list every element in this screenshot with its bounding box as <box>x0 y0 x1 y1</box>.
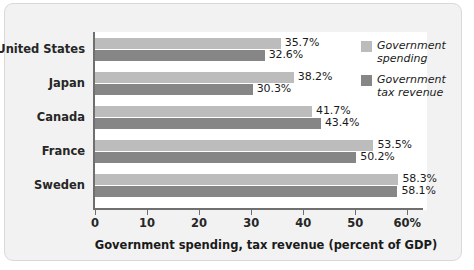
category-label: Sweden <box>34 179 85 191</box>
x-axis-title: Government spending, tax revenue (percen… <box>93 238 439 252</box>
bar-group: 53.5%50.2% <box>95 139 427 165</box>
bar-revenue <box>95 118 321 129</box>
bar-spending <box>95 174 398 185</box>
x-axis-tick <box>251 210 252 215</box>
category-label: United States <box>0 43 85 55</box>
x-axis-tick <box>95 210 96 215</box>
bar-revenue <box>95 50 265 61</box>
bar-group: 41.7%43.4% <box>95 105 427 131</box>
bar-revenue <box>95 84 253 95</box>
legend-item-tax-revenue: Government tax revenue <box>361 74 446 99</box>
x-axis-tick-label: 30 <box>243 217 259 230</box>
bar-spending <box>95 106 312 117</box>
chart-legend: Government spending Government tax reven… <box>361 40 446 108</box>
bar-value-label: 30.3% <box>257 83 291 94</box>
x-axis-tick <box>147 210 148 215</box>
x-axis-tick-label: 60% <box>394 217 422 230</box>
legend-swatch-spending-icon <box>361 41 372 52</box>
bar-group: 58.3%58.1% <box>95 173 427 199</box>
category-label: France <box>42 145 85 157</box>
bar-spending <box>95 140 373 151</box>
category-label: Japan <box>49 77 85 89</box>
legend-item-spending: Government spending <box>361 40 446 65</box>
x-axis-tick <box>303 210 304 215</box>
category-label: Canada <box>37 111 85 123</box>
x-axis-tick-label: 50 <box>347 217 363 230</box>
legend-label-spending: Government spending <box>377 40 446 65</box>
bar-value-label: 35.7% <box>285 37 319 48</box>
bar-revenue <box>95 152 356 163</box>
bar-revenue <box>95 186 397 197</box>
bar-value-label: 38.2% <box>298 71 332 82</box>
legend-swatch-tax-revenue-icon <box>361 75 372 86</box>
x-axis-tick-label: 10 <box>139 217 155 230</box>
bar-value-label: 43.4% <box>325 117 359 128</box>
x-axis-tick-label: 40 <box>295 217 311 230</box>
x-axis-tick <box>199 210 200 215</box>
bar-value-label: 58.3% <box>402 173 436 184</box>
legend-label-tax-revenue: Government tax revenue <box>377 74 446 99</box>
bar-value-label: 41.7% <box>316 105 350 116</box>
bar-spending <box>95 38 281 49</box>
figure-card: United StatesJapanCanadaFranceSweden 35.… <box>4 3 462 261</box>
x-axis-tick-label: 0 <box>91 217 99 230</box>
x-axis-tick-label: 20 <box>191 217 207 230</box>
x-axis-tick <box>355 210 356 215</box>
bar-value-label: 32.6% <box>269 49 303 60</box>
x-axis-tick <box>407 210 408 215</box>
bar-value-label: 53.5% <box>377 139 411 150</box>
bar-value-label: 58.1% <box>401 185 435 196</box>
category-axis-labels: United StatesJapanCanadaFranceSweden <box>5 32 89 208</box>
bar-value-label: 50.2% <box>360 151 394 162</box>
